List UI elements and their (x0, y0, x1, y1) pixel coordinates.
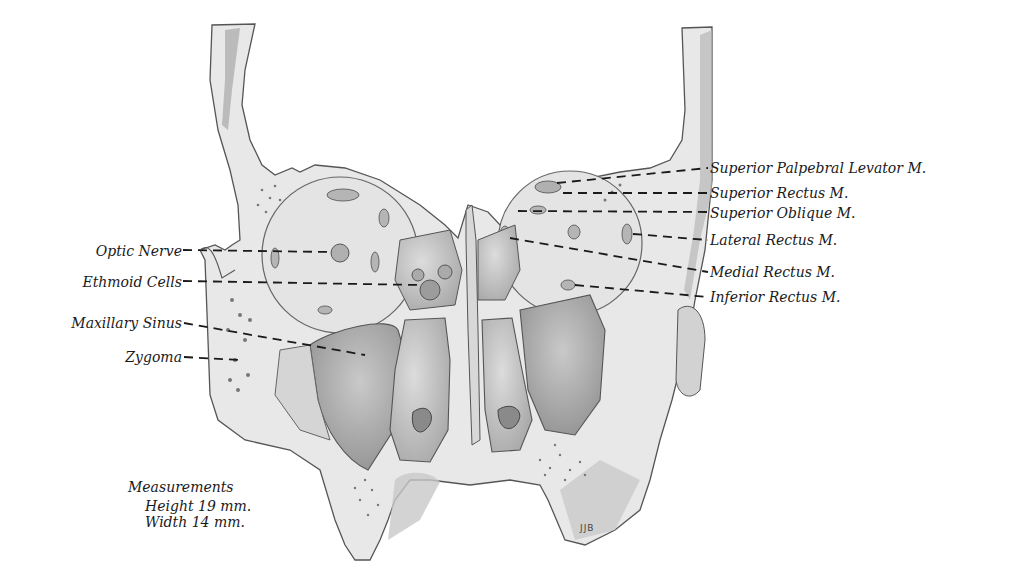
label-optic-nerve: Optic Nerve (40, 243, 182, 259)
section-illustration (0, 0, 1015, 584)
label-ethmoid-cells: Ethmoid Cells (40, 274, 182, 290)
label-superior-oblique: Superior Oblique M. (710, 205, 856, 221)
label-superior-rectus: Superior Rectus M. (710, 185, 848, 201)
label-zygoma: Zygoma (40, 349, 182, 365)
artist-signature: JJB (580, 523, 594, 533)
measurements-title: Measurements (128, 479, 234, 495)
measurements-width: Width 14 mm. (145, 514, 245, 530)
measurements-height: Height 19 mm. (145, 498, 251, 514)
label-inferior-rectus: Inferior Rectus M. (710, 289, 840, 305)
anatomical-figure: Optic Nerve Ethmoid Cells Maxillary Sinu… (0, 0, 1015, 584)
label-maxillary-sinus: Maxillary Sinus (20, 315, 182, 331)
label-superior-palpebral-levator: Superior Palpebral Levator M. (710, 160, 926, 176)
label-medial-rectus: Medial Rectus M. (710, 264, 835, 280)
label-lateral-rectus: Lateral Rectus M. (710, 232, 837, 248)
